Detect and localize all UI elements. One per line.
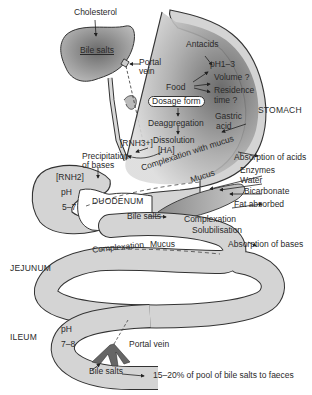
solubilisation-label: Solubilisation [192, 226, 242, 235]
absorption-acids-label: Absorption of acids [234, 153, 306, 162]
duodenum-label: DUODENUM [92, 197, 144, 206]
gastric-label: Gastric [215, 112, 242, 121]
ileum-portal-vein-label: Portal vein [129, 340, 169, 349]
absorption-bases-label: Absorption of bases [228, 240, 303, 249]
ileum-ph-value: 7–8 [61, 340, 75, 349]
gastric-acid-label: acid [216, 122, 232, 131]
portal-vein-top-label: Portal vein [139, 58, 161, 76]
ileum-ph-label: pH [61, 325, 72, 334]
jejunum-mucus-label: Mucus [150, 240, 175, 249]
jejunum-label: JEJUNUM [10, 264, 51, 273]
duodenum-bile-salts-label: Bile salts [127, 212, 161, 221]
duodenum-ph-label: pH [61, 188, 72, 197]
ileum-portal-vein [92, 344, 130, 366]
residence-label: Residence [214, 86, 254, 95]
dissolution-label: Dissolution [153, 136, 195, 145]
enzymes-label: Enzymes [240, 166, 275, 175]
bicarbonate-label: Bicarbonate [244, 187, 289, 196]
stomach-label: STOMACH [258, 106, 302, 115]
fat-absorbed-label: Fat absorbed [234, 200, 284, 209]
water-label: Water [240, 176, 262, 185]
ileum-label: ILEUM [10, 333, 37, 342]
residence-time-label: time ? [214, 96, 237, 105]
cholesterol-label: Cholesterol [74, 8, 117, 17]
food-label: Food [166, 83, 185, 92]
stomach-ph-label: pH1–3 [210, 60, 235, 69]
duodenum-complexation-label: Complexation [184, 215, 236, 224]
ileum-bile-salts-label: Bile salts [89, 367, 123, 376]
liver-bile-salts-label: Bile salts [80, 46, 114, 55]
rnh3-label: [RNH3+] [120, 139, 153, 148]
faeces-label: 15–20% of pool of bile salts to faeces [153, 371, 294, 380]
rnh2-label: [RNH2] [56, 173, 84, 182]
of-bases-label: of bases [82, 161, 114, 170]
antacids-label: Antacids [186, 40, 219, 49]
volume-label: Volume ? [214, 73, 249, 82]
deaggregation-label: Deaggregation [148, 119, 204, 128]
duodenum-ph-value: 5–7 [62, 203, 76, 212]
dosage-form-label: Dosage form [148, 96, 205, 107]
